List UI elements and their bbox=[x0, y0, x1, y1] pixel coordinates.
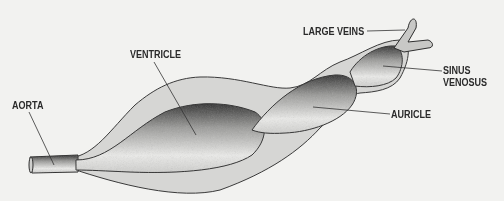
heart-illustration bbox=[0, 0, 504, 201]
label-sinus-venosus-line1: SINUS bbox=[443, 64, 471, 76]
label-sinus-venosus-line2: VENOSUS bbox=[443, 76, 487, 88]
label-auricle: AURICLE bbox=[391, 108, 431, 120]
label-large-veins: LARGE VEINS bbox=[303, 25, 364, 37]
fish-heart-diagram: LARGE VEINS VENTRICLE SINUS VENOSUS AORT… bbox=[0, 0, 504, 201]
label-ventricle: VENTRICLE bbox=[130, 48, 181, 60]
leader-large-veins bbox=[367, 30, 405, 31]
label-aorta: AORTA bbox=[12, 99, 43, 111]
large-veins-shape bbox=[394, 19, 433, 52]
